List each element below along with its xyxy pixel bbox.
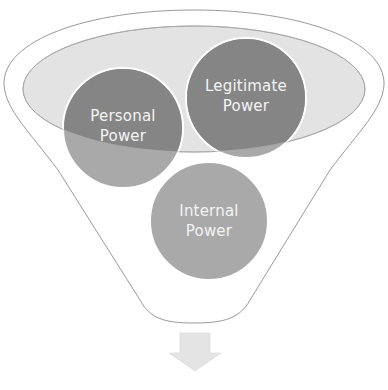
arrow-down-icon <box>169 333 221 371</box>
funnel-graphic <box>0 0 388 390</box>
label-legitimate-power-line2: Power <box>186 96 306 116</box>
label-internal-power-line2: Power <box>149 221 269 241</box>
label-internal-power: Internal Power <box>149 201 269 241</box>
label-personal-power-line2: Power <box>63 126 183 146</box>
label-legitimate-power: Legitimate Power <box>186 76 306 116</box>
label-internal-power-line1: Internal <box>149 201 269 221</box>
label-personal-power-line1: Personal <box>63 106 183 126</box>
funnel-diagram: Personal Power Legitimate Power Internal… <box>0 0 388 390</box>
label-legitimate-power-line1: Legitimate <box>186 76 306 96</box>
label-personal-power: Personal Power <box>63 106 183 146</box>
